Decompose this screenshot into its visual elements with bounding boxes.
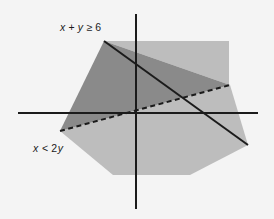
label-x-plus-y-var1: x — [59, 21, 66, 33]
graph-canvas: x+y≥6 x<2y — [0, 0, 274, 219]
label-x-plus-y-var2: y — [77, 21, 84, 33]
label-x-less-2y-var1: x — [32, 142, 39, 154]
label-x-plus-y: x+y≥6 — [59, 21, 101, 33]
label-x-less-2y-coeff: 2 — [51, 142, 57, 154]
label-x-less-2y-rel: < — [42, 142, 48, 154]
label-x-plus-y-plus: + — [68, 21, 74, 33]
label-x-less-2y-var2: y — [57, 142, 64, 154]
label-x-plus-y-value: 6 — [95, 21, 101, 33]
label-x-less-2y: x<2y — [32, 142, 64, 154]
label-x-plus-y-rel: ≥ — [87, 21, 93, 33]
inequality-graph-figure: x+y≥6 x<2y — [0, 0, 274, 219]
